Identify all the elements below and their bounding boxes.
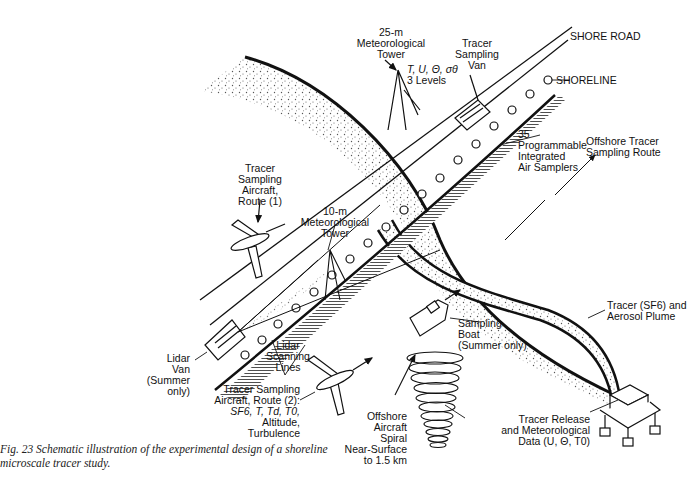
label-line: Sampling Route	[586, 147, 661, 158]
label-aircraft-route2: Tracer Sampling Aircraft, Route (2): SF6…	[200, 384, 300, 439]
label-offshore-route: Offshore Tracer Sampling Route	[586, 136, 661, 158]
figure-caption: Fig. 23 Schematic illustration of the ex…	[0, 442, 340, 470]
label-line: Van	[447, 60, 507, 71]
label-lidar-van: Lidar Van (Summer only)	[140, 353, 190, 397]
label-line: Turbulence	[200, 428, 300, 439]
tracer-sampling-van-icon	[455, 75, 490, 130]
lidar-van-icon	[205, 320, 245, 360]
label-sampling-boat: Sampling Boat (Summer only)	[458, 318, 527, 351]
label-shoreline: SHORELINE	[556, 75, 617, 86]
label-line: to 1.5 km	[335, 455, 407, 466]
label-shore-road: SHORE ROAD	[570, 31, 641, 42]
label-line: only)	[140, 386, 190, 397]
label-aircraft-route1: Tracer Sampling Aircraft, Route (1)	[230, 163, 290, 207]
label-line: Air Samplers	[518, 162, 587, 173]
label-line: Tower	[295, 228, 375, 239]
label-line: 3 Levels	[407, 75, 458, 86]
label-line: Route (1)	[230, 196, 290, 207]
label-line: Tower	[346, 49, 436, 60]
air-sampler-markers	[241, 76, 552, 359]
label-line: Aerosol Plume	[607, 311, 687, 322]
label-line: Lines	[258, 362, 318, 373]
label-plume: Tracer (SF6) and Aerosol Plume	[607, 300, 687, 322]
label-met-tower-10m: 10-m Meteorological Tower	[295, 206, 375, 239]
label-aircraft-spiral: Offshore Aircraft Spiral Near-Surface to…	[335, 411, 407, 466]
caption-line: Fig. 23 Schematic illustration of the ex…	[0, 442, 340, 456]
aircraft-route1-icon	[229, 200, 285, 278]
label-tracer-release: Tracer Release and Meteorological Data (…	[485, 414, 590, 447]
label-line: Data (U, Θ, T0)	[485, 436, 590, 447]
caption-line: microscale tracer study.	[0, 456, 340, 470]
label-met-tower-25m: 25-m Meteorological Tower	[346, 27, 436, 60]
label-air-samplers: 35 Programmable Integrated Air Samplers	[518, 129, 587, 173]
label-line: (Summer only)	[458, 340, 527, 351]
label-tracer-sampling-van: Tracer Sampling Van	[447, 38, 507, 71]
label-lidar-lines: Lidar Scanning Lines	[258, 340, 318, 373]
